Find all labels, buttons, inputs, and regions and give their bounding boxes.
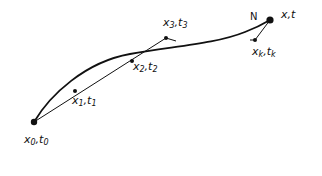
xk-line xyxy=(255,20,270,40)
diagram-canvas xyxy=(0,0,322,176)
label-x3-t3: x3,t3 xyxy=(163,17,188,30)
label-x0-t0: x0,t0 xyxy=(24,134,49,147)
label-tsub: 0 xyxy=(43,138,48,147)
point-end xyxy=(266,16,273,23)
label-x2-t2: x2,t2 xyxy=(133,61,158,74)
label-end-xt: x,t xyxy=(281,9,295,20)
label-x1-t1: x1,t1 xyxy=(72,95,97,108)
point-xk xyxy=(253,38,257,42)
label-tsub: 3 xyxy=(182,21,187,30)
label-tsub: k xyxy=(271,50,276,59)
chord-line xyxy=(34,38,166,122)
label-n: N xyxy=(250,12,257,22)
label-xk-tk: xk,tk xyxy=(252,46,276,59)
label-text: x,t xyxy=(281,8,295,21)
point-x1 xyxy=(73,89,77,93)
label-tsub: 1 xyxy=(91,99,96,108)
point-x0 xyxy=(31,119,37,125)
label-tsub: 2 xyxy=(152,65,157,74)
point-x3 xyxy=(164,36,168,40)
